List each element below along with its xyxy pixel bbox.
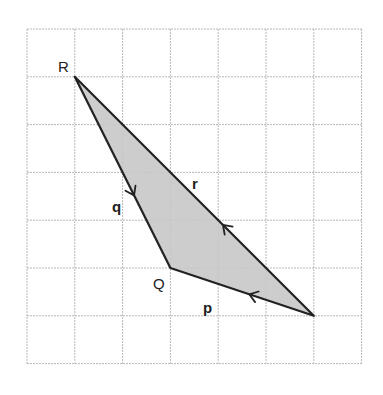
edge-label-p: p (203, 299, 212, 316)
edge-label-r: r (192, 175, 198, 192)
vertex-label-q: Q (153, 275, 165, 292)
vector-diagram: R Q q r p (0, 0, 383, 395)
vertex-label-r: R (58, 58, 69, 75)
shaded-triangle (75, 77, 314, 316)
edge-label-q: q (112, 198, 121, 215)
